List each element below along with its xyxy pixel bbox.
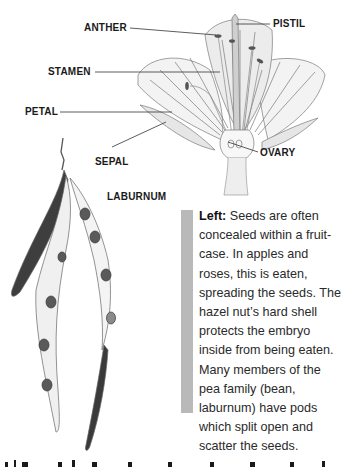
label-stamen: STAMEN (48, 66, 91, 77)
label-sepal: SEPAL (95, 156, 129, 167)
label-ovary: OVARY (260, 147, 295, 158)
label-laburnum: LABURNUM (107, 191, 166, 202)
caption-accent-bar (181, 210, 193, 413)
flower-diagram (138, 14, 325, 195)
laburnum-pods (11, 138, 115, 450)
cropped-text-line (0, 458, 339, 467)
label-petal: PETAL (25, 106, 58, 117)
caption-body: Seeds are often concealed within a fruit… (199, 209, 341, 453)
caption-lead: Left: (199, 209, 226, 223)
caption: Left: Seeds are often concealed within a… (199, 207, 341, 457)
label-anther: ANTHER (84, 22, 127, 33)
label-pistil: PISTIL (273, 18, 305, 29)
